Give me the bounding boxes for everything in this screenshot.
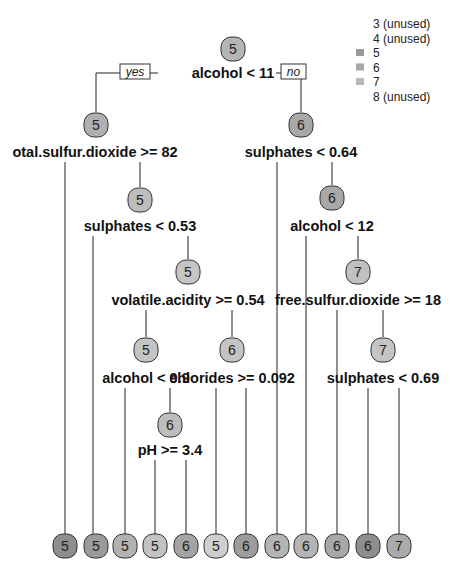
leaf-node: 6 [234,534,258,558]
legend-label: 5 [373,46,380,60]
leaf-node: 6 [356,534,380,558]
node-value: 6 [328,190,336,206]
svg-text:no: no [287,65,301,79]
legend-swatch [356,49,364,56]
split-label: sulphates < 0.64 [245,144,357,160]
node-value: 6 [364,538,372,554]
leaf-node: 7 [387,534,411,558]
leaf-node: 6 [294,534,318,558]
node-value: 5 [212,538,220,554]
node-value: 5 [229,41,237,57]
node-value: 5 [121,538,129,554]
split-label: volatile.acidity >= 0.54 [111,292,264,308]
legend-swatch [356,64,364,71]
tree-node: 5 [221,37,245,61]
node-value: 5 [151,538,159,554]
leaf-node: 5 [53,534,77,558]
node-value: 7 [354,264,362,280]
leaf-node: 5 [143,534,167,558]
tree-node: 5 [134,338,158,362]
tree-node: 7 [346,260,370,284]
leaf-node: 6 [174,534,198,558]
legend-item: 6 [356,61,380,75]
svg-text:yes: yes [125,65,145,79]
leaf-node: 5 [204,534,228,558]
legend: 3 (unused)4 (unused)5678 (unused) [356,17,430,104]
node-value: 5 [142,342,150,358]
legend-item: 8 (unused) [373,90,430,104]
node-value: 5 [184,264,192,280]
legend-item: 3 (unused) [373,17,430,31]
tree-node: 5 [84,113,108,137]
split-label: alcohol < 12 [290,218,373,234]
node-value: 6 [182,538,190,554]
node-value: 6 [242,538,250,554]
node-value: 7 [395,538,403,554]
tree-node: 5 [128,188,152,212]
node-value: 5 [61,538,69,554]
node-value: 6 [297,117,305,133]
split-label: otal.sulfur.dioxide >= 82 [12,144,177,160]
node-value: 6 [333,538,341,554]
node-value: 6 [228,342,236,358]
no-label: no [281,64,306,79]
legend-label: 6 [373,61,380,75]
yes-label: yes [120,64,150,79]
node-value: 7 [379,342,387,358]
leaf-node: 6 [265,534,289,558]
tree-node: 6 [320,186,344,210]
legend-label: 8 (unused) [373,90,430,104]
leaf-node: 5 [113,534,137,558]
split-label: chlorides >= 0.092 [169,370,295,386]
leaf-node: 6 [325,534,349,558]
legend-swatch [356,78,364,85]
split-label: sulphates < 0.69 [327,370,439,386]
legend-label: 7 [373,75,380,89]
legend-item: 7 [356,75,380,89]
tree-node: 6 [158,413,182,437]
node-value: 6 [166,417,174,433]
node-value: 6 [302,538,310,554]
decision-tree: 3 (unused)4 (unused)5678 (unused) 5alcoh… [0,0,466,581]
split-label: sulphates < 0.53 [84,218,196,234]
split-label: alcohol < 11 [192,65,275,81]
split-label: free.sulfur.dioxide >= 18 [275,292,441,308]
legend-label: 4 (unused) [373,32,430,46]
node-value: 5 [92,117,100,133]
tree-node: 6 [220,338,244,362]
tree-node: 6 [289,113,313,137]
node-value: 5 [136,192,144,208]
tree-node: 5 [176,260,200,284]
split-label: pH >= 3.4 [138,442,202,458]
legend-item: 4 (unused) [373,32,430,46]
leaf-node: 5 [84,534,108,558]
legend-label: 3 (unused) [373,17,430,31]
legend-item: 5 [356,46,380,60]
node-value: 5 [92,538,100,554]
node-value: 6 [273,538,281,554]
tree-node: 7 [371,338,395,362]
tree-nodes: 5alcohol < 115otal.sulfur.dioxide >= 826… [12,37,441,558]
